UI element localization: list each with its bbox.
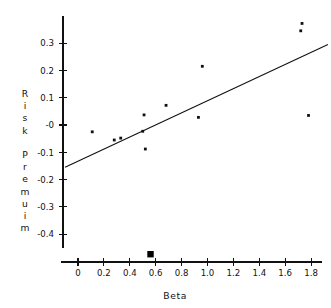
- x-axis-tick-label: 0.4: [123, 268, 137, 278]
- y-axis-title-char: P: [22, 149, 28, 160]
- axis-square-marker: [147, 251, 153, 257]
- y-axis-tick-label: 0.2: [40, 66, 54, 76]
- data-point: [197, 116, 200, 119]
- x-axis-tick-label: 1.2: [227, 268, 241, 278]
- y-axis-tick-label: -0: [45, 120, 54, 130]
- y-axis-title-char: i: [24, 100, 27, 111]
- y-axis-tick-label: -0.4: [37, 229, 54, 239]
- x-axis-tick-label: 0.6: [149, 268, 163, 278]
- regression-line: [65, 44, 328, 167]
- data-point: [119, 137, 122, 140]
- data-point: [143, 114, 146, 117]
- data-point: [307, 114, 310, 117]
- y-axis-tick-label: 0.1: [40, 93, 54, 103]
- data-point: [141, 130, 144, 133]
- y-axis-title-char: m: [21, 222, 30, 233]
- x-axis-tick-label: 0.2: [97, 268, 111, 278]
- y-axis-title-char: i: [24, 210, 27, 221]
- x-axis-tick-label: 0.8: [175, 268, 189, 278]
- data-point: [299, 29, 302, 32]
- y-axis-title-char: s: [23, 112, 28, 123]
- data-point: [301, 22, 304, 25]
- y-axis-title-char: k: [22, 125, 28, 136]
- data-point: [201, 65, 204, 68]
- x-axis-tick-label: 1.6: [278, 268, 292, 278]
- data-point: [91, 130, 94, 133]
- y-axis-title-char: u: [22, 198, 28, 209]
- scatter-plot-figure: 0.30.20.1-0-0.1-0.2-0.3-0.400.20.40.60.8…: [0, 0, 331, 308]
- y-axis-tick-label: -0.2: [37, 175, 54, 185]
- chart-canvas: 0.30.20.1-0-0.1-0.2-0.3-0.400.20.40.60.8…: [0, 0, 331, 308]
- data-point: [165, 104, 168, 107]
- x-axis-title: Beta: [163, 290, 187, 301]
- x-axis-tick-label: 0: [75, 268, 80, 278]
- x-axis-tick-label: 1.8: [304, 268, 318, 278]
- y-axis-tick-label: -0.3: [37, 202, 54, 212]
- y-axis-title-char: m: [21, 186, 30, 197]
- x-axis-tick-label: 1.4: [252, 268, 266, 278]
- y-axis-tick-label: -0.1: [37, 148, 54, 158]
- y-axis-title-char: r: [23, 161, 27, 172]
- y-axis-title-char: e: [22, 173, 28, 184]
- x-axis-tick-label: 1.0: [201, 268, 215, 278]
- data-point: [113, 139, 116, 142]
- y-axis-tick-label: 0.3: [40, 38, 54, 48]
- data-point: [144, 148, 147, 151]
- y-axis-title-char: R: [22, 88, 29, 99]
